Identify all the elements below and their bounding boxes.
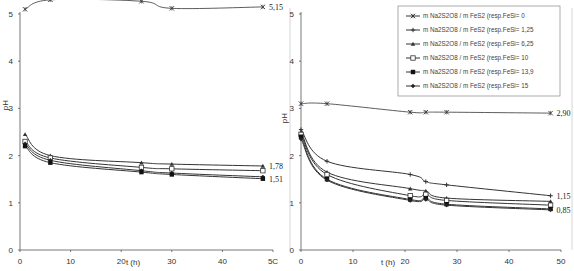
chart-canvas: 0123450102030405Ct (h)pH5,151,781,510123… (0, 0, 574, 271)
svg-text:m Na2S2O8 / m FeS2 (resp.FeSi=: m Na2S2O8 / m FeS2 (resp.FeSi= 0 (423, 12, 525, 20)
y-tick-label: 2 (290, 152, 295, 161)
x-axis-label: t (h) (126, 258, 141, 267)
x-tick-label: 30 (167, 257, 176, 266)
legend-entry: m Na2S2O8 / m FeS2 (resp.FeSi= 15 (406, 82, 529, 90)
series-line: 1,15 (299, 127, 571, 200)
y-axis-label: pH (1, 100, 10, 110)
x-axis-label: t (h) (381, 258, 396, 267)
legend: m Na2S2O8 / m FeS2 (resp.FeSi= 0m Na2S2O… (398, 6, 560, 96)
series-line (23, 142, 265, 179)
series-line: 2,90 (299, 101, 571, 118)
legend-entry: m Na2S2O8 / m FeS2 (resp.FeSi= 1,25 (406, 26, 534, 34)
x-tick-label: 20 (401, 257, 410, 266)
y-tick-label: 5 (290, 10, 295, 19)
y-tick-label: 5 (9, 10, 14, 19)
end-value-label: 1,78 (269, 162, 283, 171)
x-tick-label: 40 (218, 257, 227, 266)
end-value-label: 2,90 (557, 109, 571, 118)
y-tick-label: 0 (290, 246, 295, 255)
end-value-label: 5,15 (269, 3, 283, 12)
y-tick-label: 1 (290, 199, 295, 208)
right-chart: 01234501020304050t (h)pH2,901,150,85m Na… (280, 6, 572, 267)
left-chart: 0123450102030405Ct (h)pH5,151,781,51 (1, 0, 290, 267)
svg-text:m Na2S2O8 / m FeS2 (resp.FeSi=: m Na2S2O8 / m FeS2 (resp.FeSi= 10 (423, 54, 529, 62)
legend-entry: m Na2S2O8 / m FeS2 (resp.FeSi= 13,9 (406, 68, 534, 76)
x-tick-label: 40 (505, 257, 514, 266)
y-tick-label: 4 (290, 57, 295, 66)
x-tick-label: 20 (117, 257, 126, 266)
x-tick-label: 10 (66, 257, 75, 266)
svg-text:m Na2S2O8 / m FeS2 (resp.FeSi=: m Na2S2O8 / m FeS2 (resp.FeSi= 13,9 (423, 68, 534, 76)
y-tick-label: 3 (290, 104, 295, 113)
x-tick-label: 0 (18, 257, 23, 266)
series-line: 0,85 (299, 137, 571, 215)
svg-text:m Na2S2O8 / m FeS2 (resp.FeSi=: m Na2S2O8 / m FeS2 (resp.FeSi= 6,25 (423, 40, 534, 48)
y-axis-label: pH (280, 113, 289, 123)
x-tick-label: 5C (268, 257, 278, 266)
series-line: 5,15 (23, 0, 283, 12)
y-tick-label: 2 (9, 152, 14, 161)
series-line: 1,78 (23, 132, 283, 171)
legend-entry: m Na2S2O8 / m FeS2 (resp.FeSi= 6,25 (406, 40, 534, 48)
y-tick-label: 0 (9, 246, 14, 255)
y-tick-label: 4 (9, 57, 14, 66)
end-value-label: 1,51 (269, 175, 283, 184)
x-tick-label: 0 (299, 257, 304, 266)
x-tick-label: 50 (557, 257, 566, 266)
legend-entry: m Na2S2O8 / m FeS2 (resp.FeSi= 10 (406, 54, 529, 62)
legend-entry: m Na2S2O8 / m FeS2 (resp.FeSi= 0 (406, 12, 525, 20)
end-value-label: 0,85 (557, 206, 571, 215)
svg-text:m Na2S2O8 / m FeS2 (resp.FeSi=: m Na2S2O8 / m FeS2 (resp.FeSi= 15 (423, 82, 529, 90)
end-value-label: 1,15 (557, 192, 571, 201)
y-tick-label: 1 (9, 199, 14, 208)
x-tick-label: 30 (453, 257, 462, 266)
series-line (23, 139, 265, 173)
x-tick-label: 10 (349, 257, 358, 266)
svg-text:m Na2S2O8 / m FeS2 (resp.FeSi=: m Na2S2O8 / m FeS2 (resp.FeSi= 1,25 (423, 26, 534, 34)
